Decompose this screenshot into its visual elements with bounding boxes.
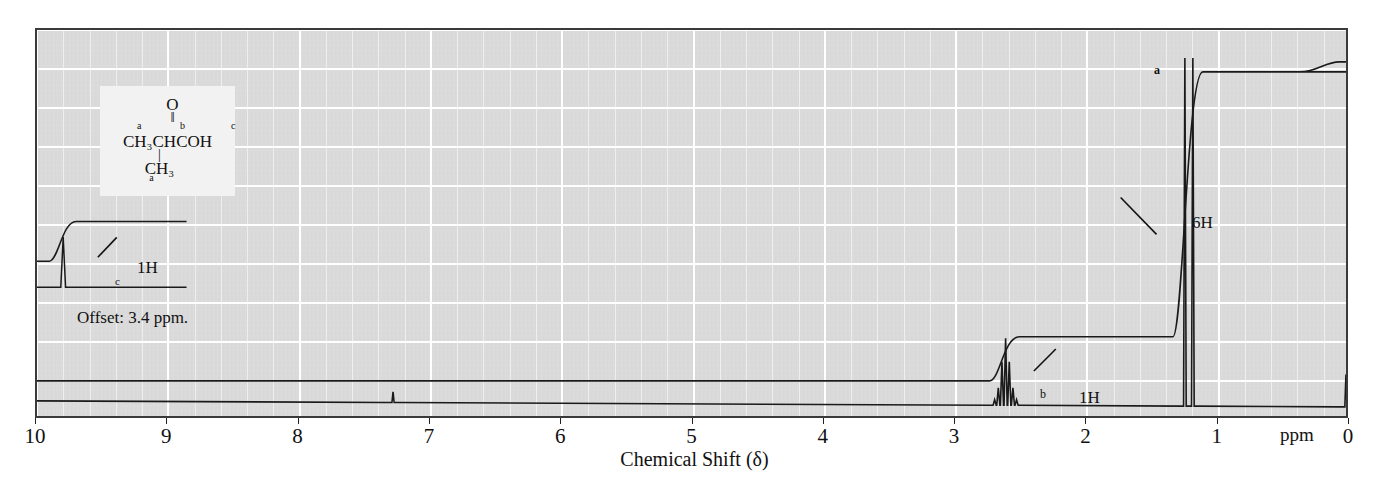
structure-vertical-bond: | — [107, 150, 212, 160]
structure-label-a: a — [137, 121, 141, 131]
peak-label-c: c — [115, 275, 120, 287]
leader-line-6h — [1121, 197, 1157, 234]
peak-label-b: b — [1040, 387, 1046, 402]
axis-tick-label: 6 — [555, 424, 566, 449]
integration-label-1h-c: 1H — [137, 258, 158, 278]
axis-tick-label: 8 — [292, 424, 303, 449]
nmr-spectrum-figure: O ‖ a b c CH₃CHCOH | CH₃ a a 6H b 1H c 1… — [0, 0, 1389, 489]
axis-tick-label: 3 — [949, 424, 960, 449]
structure-main-chain: CH₃CHCOH — [123, 133, 212, 150]
integration-label-6h: 6H — [1192, 213, 1213, 233]
ppm-unit-label: ppm — [1280, 424, 1314, 446]
axis-tick-label: 1 — [1211, 424, 1222, 449]
structure-branch-label: a — [107, 173, 196, 183]
integration-label-1h-b: 1H — [1079, 388, 1100, 408]
axis-tick-label: 4 — [818, 424, 829, 449]
plot-area: O ‖ a b c CH₃CHCOH | CH₃ a a 6H b 1H c 1… — [35, 28, 1348, 418]
structure-double-bond: ‖ — [133, 113, 212, 121]
x-axis: 109876543210 — [35, 418, 1348, 448]
leader-line-1h-b — [1034, 349, 1056, 371]
peak-label-a: a — [1154, 63, 1160, 78]
leader-line-1h-c — [98, 237, 117, 257]
offset-note: Offset: 3.4 ppm. — [77, 308, 188, 328]
axis-tick-label: 0 — [1343, 424, 1354, 449]
axis-tick-label: 9 — [161, 424, 172, 449]
structure-atom-labels: a b c — [123, 121, 212, 133]
structure-label-b: b — [180, 121, 185, 131]
axis-tick-label: 5 — [686, 424, 697, 449]
structure-inset: O ‖ a b c CH₃CHCOH | CH₃ a — [100, 86, 235, 196]
x-axis-title: Chemical Shift (δ) — [0, 448, 1389, 471]
axis-tick-label: 2 — [1080, 424, 1091, 449]
structure-label-c: c — [231, 121, 235, 131]
offset-integration-trace — [37, 221, 187, 261]
axis-tick-label: 10 — [25, 424, 46, 449]
axis-tick-label: 7 — [424, 424, 435, 449]
